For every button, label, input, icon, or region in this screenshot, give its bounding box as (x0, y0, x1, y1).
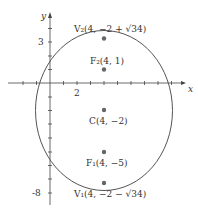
point-f1 (102, 150, 106, 154)
y-axis (48, 12, 52, 205)
point-c (102, 108, 106, 112)
x-axis-label: x (188, 84, 193, 94)
x-axis (8, 81, 186, 85)
point-f2 (102, 67, 106, 71)
y-tick-label-3: 3 (38, 37, 44, 47)
label-v2: V₂(4, −2 + √34) (73, 24, 146, 34)
y-axis-label: y (40, 11, 47, 21)
point-v2 (102, 36, 106, 40)
y-tick-label-neg8: -8 (32, 188, 41, 198)
point-v1 (102, 181, 106, 185)
label-c: C(4, −2) (89, 116, 128, 126)
ellipse-diagram: x y 2 3 -8 V₂(4, −2 + √34) F₂(4, 1) C(4,… (0, 0, 198, 221)
label-f2: F₂(4, 1) (90, 56, 124, 66)
x-tick-label-2: 2 (74, 88, 80, 98)
label-v1: V₁(4, −2 − √34) (73, 189, 146, 199)
label-f1: F₁(4, −5) (86, 158, 128, 168)
